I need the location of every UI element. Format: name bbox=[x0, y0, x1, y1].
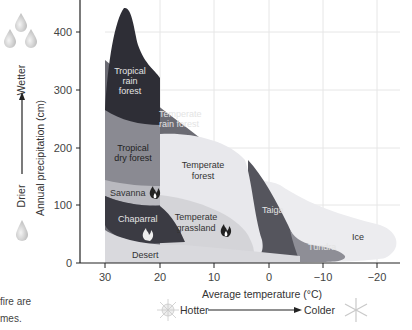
label-tropical-dry-forest-1: Tropical bbox=[117, 143, 149, 153]
label-temperate-rain-forest-2: rain forest bbox=[159, 119, 200, 129]
label-tropical-dry-forest-2: dry forest bbox=[114, 153, 152, 163]
x-tick-minus20: −20 bbox=[368, 271, 387, 283]
x-tick-20: 20 bbox=[154, 271, 166, 283]
snowflake-icon bbox=[345, 298, 367, 322]
x-tick-0: 0 bbox=[266, 271, 272, 283]
y-tick-0: 0 bbox=[66, 257, 72, 269]
label-desert: Desert bbox=[132, 250, 159, 260]
water-drop-icon bbox=[16, 220, 28, 241]
label-savanna: Savanna bbox=[110, 188, 146, 198]
label-tropical-rain-forest-2: rain bbox=[122, 76, 137, 86]
y-tick-400: 400 bbox=[54, 26, 72, 38]
label-ice: Ice bbox=[352, 232, 364, 242]
label-taiga: Taiga bbox=[262, 205, 284, 215]
sun-icon bbox=[157, 299, 179, 321]
hotter-label: Hotter bbox=[180, 304, 209, 316]
label-temperate-forest-2: forest bbox=[192, 171, 215, 181]
label-temperate-grassland-2: grassland bbox=[176, 223, 215, 233]
label-tropical-rain-forest-1: Tropical bbox=[114, 66, 146, 76]
label-temperate-rain-forest-1: Temperate bbox=[159, 109, 202, 119]
y-tick-100: 100 bbox=[54, 199, 72, 211]
colder-label: Colder bbox=[304, 304, 335, 316]
drier-label: Drier bbox=[15, 184, 27, 207]
x-tick-minus10: −10 bbox=[314, 271, 333, 283]
water-drops-icon bbox=[4, 13, 37, 48]
caption-line-2: mes. bbox=[0, 313, 22, 324]
y-tick-300: 300 bbox=[54, 84, 72, 96]
wetter-label: Wetter bbox=[15, 64, 27, 95]
x-tick-30: 30 bbox=[99, 271, 111, 283]
y-axis-title: Annual precipitation (cm) bbox=[34, 100, 46, 216]
x-tick-10: 10 bbox=[208, 271, 220, 283]
arrow-head-right-icon bbox=[294, 307, 302, 313]
y-tick-200: 200 bbox=[54, 142, 72, 154]
label-temperate-forest-1: Temperate bbox=[182, 160, 225, 170]
x-axis-title: Average temperature (°C) bbox=[202, 288, 322, 300]
label-tropical-rain-forest-3: forest bbox=[119, 86, 142, 96]
label-tundra: Tundra bbox=[308, 242, 336, 252]
label-temperate-grassland-1: Temperate bbox=[175, 212, 218, 222]
biome-diagram: 0 100 200 300 400 30 20 10 0 −10 −20 Ave… bbox=[0, 0, 412, 330]
caption-line-1: fire are bbox=[0, 296, 31, 307]
label-chaparral: Chaparral bbox=[118, 214, 158, 224]
